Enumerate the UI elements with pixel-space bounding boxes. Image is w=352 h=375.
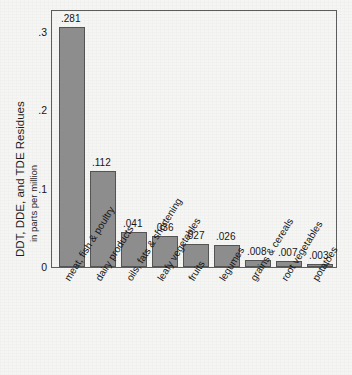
bar-value-dairy-products: .112: [92, 157, 111, 168]
chart-figure: DDT, DDE, and TDE Residues in parts per …: [0, 0, 352, 375]
bar-meat-fish-poultry[interactable]: [59, 27, 85, 267]
y-tick-0.1: .1: [38, 183, 47, 195]
bar-value-legumes: .026: [216, 231, 235, 242]
y-tick-0.3: .3: [38, 26, 47, 38]
bar-value-meat-fish-poultry: .281: [61, 13, 80, 24]
y-tick-0.2: .2: [38, 104, 47, 116]
y-tick-0: 0: [41, 261, 47, 273]
y-axis-ticks: .3 .2 .1 0: [18, 0, 47, 375]
